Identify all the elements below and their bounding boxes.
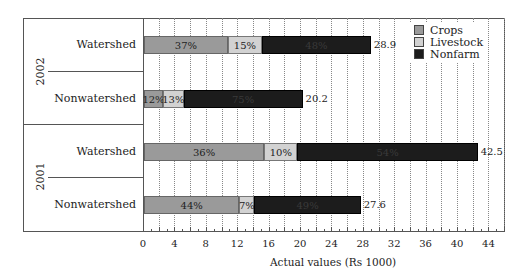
x-tick	[159, 227, 160, 232]
category-label: Nonwatershed	[54, 198, 136, 211]
x-tick	[402, 229, 403, 232]
x-tick	[371, 229, 372, 232]
year-group-divider	[23, 124, 144, 125]
x-tick	[457, 227, 458, 232]
bar-segment-livestock: 15%	[228, 36, 262, 54]
x-tick	[174, 227, 175, 232]
nonfarm-swatch	[414, 49, 424, 59]
x-tick	[300, 227, 301, 232]
bar-segment-crops: 37%	[144, 36, 228, 54]
x-tick	[237, 227, 238, 232]
crops-swatch	[414, 25, 424, 35]
x-axis-label: Actual values (Rs 1000)	[270, 256, 396, 268]
x-tick-label: 16	[259, 238, 279, 249]
stacked-bar: 37%15%48%	[144, 36, 371, 54]
x-tick-label: 20	[290, 238, 310, 249]
legend-item-livestock: Livestock	[414, 36, 483, 48]
x-tick-label: 32	[384, 238, 404, 249]
bar-total-label: 42.5	[481, 146, 503, 157]
category-divider-2002	[48, 71, 144, 72]
bar-segment-crops: 12%	[144, 90, 163, 108]
x-tick	[347, 227, 348, 232]
legend-item-nonfarm: Nonfarm	[414, 48, 483, 60]
x-tick	[504, 227, 505, 232]
x-tick	[496, 229, 497, 232]
category-label: Nonwatershed	[54, 92, 136, 105]
bar-segment-crops: 44%	[144, 196, 239, 214]
bar-segment-livestock: 7%	[239, 196, 254, 214]
bar-total-label: 28.9	[374, 39, 396, 50]
livestock-swatch	[414, 37, 424, 47]
x-tick	[394, 227, 395, 232]
x-tick	[441, 227, 442, 232]
x-tick	[433, 229, 434, 232]
legend-item-crops: Crops	[414, 24, 483, 36]
category-divider-2001	[48, 177, 144, 178]
category-label: Watershed	[77, 38, 136, 51]
x-tick	[465, 229, 466, 232]
x-tick	[206, 227, 207, 232]
x-tick-label: 0	[133, 238, 153, 249]
bar-segment-nonfarm: 54%	[297, 143, 477, 161]
category-label: Watershed	[77, 145, 136, 158]
gridline	[488, 18, 489, 232]
x-tick	[253, 227, 254, 232]
bar-segment-crops: 36%	[144, 143, 264, 161]
x-tick	[261, 229, 262, 232]
year-label-2002: 2002	[34, 52, 47, 92]
x-tick	[339, 229, 340, 232]
x-tick-label: 12	[227, 238, 247, 249]
x-tick	[245, 229, 246, 232]
legend-label: Nonfarm	[430, 48, 480, 61]
x-tick	[214, 229, 215, 232]
bar-segment-nonfarm: 75%	[184, 90, 303, 108]
x-tick-label: 24	[321, 238, 341, 249]
x-tick-label: 8	[196, 238, 216, 249]
bar-segment-livestock: 13%	[163, 90, 184, 108]
x-tick	[151, 229, 152, 232]
x-tick	[363, 227, 364, 232]
gridline	[504, 18, 505, 232]
legend: Crops Livestock Nonfarm	[410, 22, 487, 62]
x-tick-label: 4	[164, 238, 184, 249]
x-tick-label: 44	[478, 238, 498, 249]
x-tick-label: 28	[353, 238, 373, 249]
x-tick	[355, 229, 356, 232]
bar-segment-nonfarm: 49%	[254, 196, 360, 214]
x-tick	[418, 229, 419, 232]
x-tick	[410, 227, 411, 232]
x-tick	[292, 229, 293, 232]
x-tick	[426, 227, 427, 232]
x-tick	[182, 229, 183, 232]
x-tick	[473, 227, 474, 232]
x-tick	[449, 229, 450, 232]
bar-total-label: 20.2	[306, 93, 328, 104]
x-tick	[488, 227, 489, 232]
x-tick	[276, 229, 277, 232]
x-tick	[167, 229, 168, 232]
x-tick	[284, 227, 285, 232]
gridline	[394, 18, 395, 232]
stacked-bar: 12%13%75%	[144, 90, 303, 108]
x-tick	[269, 227, 270, 232]
bar-segment-livestock: 10%	[264, 143, 297, 161]
x-tick	[481, 229, 482, 232]
x-tick	[331, 227, 332, 232]
x-tick-label: 40	[447, 238, 467, 249]
x-tick	[143, 227, 144, 232]
bar-segment-nonfarm: 48%	[262, 36, 371, 54]
x-tick	[386, 229, 387, 232]
x-tick	[316, 227, 317, 232]
x-tick	[222, 227, 223, 232]
x-tick	[379, 227, 380, 232]
stacked-bar: 36%10%54%	[144, 143, 478, 161]
bar-total-label: 27.6	[364, 199, 386, 210]
stacked-bar: 44%7%49%	[144, 196, 361, 214]
x-tick-label: 36	[416, 238, 436, 249]
x-tick	[308, 229, 309, 232]
x-tick	[229, 229, 230, 232]
x-tick	[190, 227, 191, 232]
x-tick	[198, 229, 199, 232]
x-tick	[324, 229, 325, 232]
year-label-2001: 2001	[34, 157, 47, 197]
